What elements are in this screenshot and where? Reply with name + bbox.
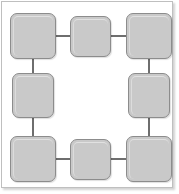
ring-topology-diagram: [0, 0, 179, 194]
edge-middle-right--bottom-right: [148, 117, 150, 137]
node-top-right[interactable]: [126, 13, 172, 59]
node-middle-right[interactable]: [128, 73, 170, 118]
edge-top-left--top-center: [55, 35, 71, 37]
edge-top-center--top-right: [110, 35, 127, 37]
edge-bottom-center--bottom-right: [110, 158, 127, 160]
node-top-left[interactable]: [10, 13, 56, 59]
node-top-center[interactable]: [70, 16, 111, 57]
edge-bottom-left--bottom-center: [55, 158, 71, 160]
node-bottom-left[interactable]: [10, 136, 56, 182]
node-bottom-center[interactable]: [70, 139, 111, 180]
diagram-canvas: [0, 0, 179, 194]
node-middle-left[interactable]: [12, 73, 54, 118]
node-bottom-right[interactable]: [126, 136, 172, 182]
edge-top-left--middle-left: [32, 58, 34, 74]
edge-middle-left--bottom-left: [32, 117, 34, 137]
edge-top-right--middle-right: [148, 58, 150, 74]
